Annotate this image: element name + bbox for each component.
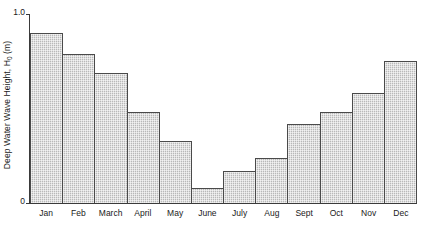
x-tick-label-april: April xyxy=(127,206,159,220)
bar-may xyxy=(159,141,192,203)
bar-chart-figure: Deep Water Wave Height, H0 (m) 1.0 0 Jan… xyxy=(0,0,424,237)
y-tick-label-top: 1.0 xyxy=(3,7,25,17)
x-tick-label-march: March xyxy=(95,206,127,220)
bar-aug xyxy=(255,158,288,203)
bar-feb xyxy=(62,54,95,203)
bar-april xyxy=(127,112,160,203)
y-axis-title-text: Deep Water Wave Height, H xyxy=(2,60,12,169)
x-tick-label-june: June xyxy=(191,206,223,220)
bar-nov xyxy=(352,93,385,203)
x-tick-label-nov: Nov xyxy=(353,206,385,220)
bar-march xyxy=(94,73,127,203)
x-tick-label-oct: Oct xyxy=(320,206,352,220)
y-axis-title-units: (m) xyxy=(2,41,12,57)
bar-july xyxy=(223,171,256,203)
x-axis-tick-labels: JanFebMarchAprilMayJuneJulyAugSeptOctNov… xyxy=(30,206,417,220)
x-tick-label-may: May xyxy=(159,206,191,220)
bar-sept xyxy=(287,124,320,203)
x-tick-label-july: July xyxy=(224,206,256,220)
y-tick-label-bottom: 0 xyxy=(3,196,25,206)
x-tick-label-jan: Jan xyxy=(30,206,62,220)
bar-dec xyxy=(384,61,417,203)
bar-june xyxy=(191,188,224,203)
x-axis-line xyxy=(29,203,417,204)
x-tick-label-aug: Aug xyxy=(256,206,288,220)
y-axis-title-subscript: 0 xyxy=(6,56,13,60)
plot-area xyxy=(30,14,417,203)
x-tick-label-dec: Dec xyxy=(385,206,417,220)
x-tick-label-sept: Sept xyxy=(288,206,320,220)
y-axis-title: Deep Water Wave Height, H0 (m) xyxy=(0,0,14,210)
bar-oct xyxy=(320,112,353,203)
bar-jan xyxy=(30,33,63,203)
x-tick-label-feb: Feb xyxy=(62,206,94,220)
